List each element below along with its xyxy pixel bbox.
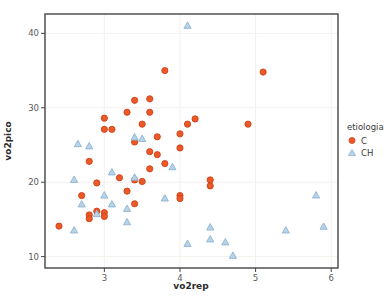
y-tick-label: 40 bbox=[28, 28, 39, 38]
data-point-c bbox=[101, 115, 107, 121]
data-point-c bbox=[192, 116, 198, 122]
data-point-ch bbox=[101, 192, 108, 198]
data-point-c bbox=[162, 67, 168, 73]
gridlines bbox=[45, 14, 338, 268]
data-point-c bbox=[147, 96, 153, 102]
data-point-c bbox=[86, 158, 92, 164]
axis-tick-labels: 345610203040 bbox=[28, 28, 334, 283]
data-point-c bbox=[101, 126, 107, 132]
data-point-c bbox=[147, 149, 153, 155]
axis-ticks bbox=[41, 33, 331, 272]
data-point-c bbox=[207, 183, 213, 189]
data-point-ch bbox=[78, 201, 85, 207]
data-point-ch bbox=[71, 176, 78, 182]
data-point-ch bbox=[139, 135, 146, 141]
y-axis-label: vo2pico bbox=[3, 121, 13, 160]
data-point-ch bbox=[320, 223, 327, 229]
data-point-ch bbox=[161, 195, 168, 201]
data-point-c bbox=[177, 145, 183, 151]
legend-marker-ch-triangle-icon bbox=[348, 150, 355, 156]
data-point-ch bbox=[131, 174, 138, 180]
data-point-ch bbox=[222, 239, 229, 245]
data-point-c bbox=[245, 121, 251, 127]
data-point-ch bbox=[312, 192, 319, 198]
data-point-c bbox=[184, 121, 190, 127]
legend-marker-c-circle-icon bbox=[349, 138, 355, 144]
legend-label-ch: CH bbox=[361, 148, 373, 158]
legend: etiologia C CH bbox=[347, 122, 384, 158]
data-point-c bbox=[109, 126, 115, 132]
y-tick-label: 20 bbox=[28, 177, 39, 187]
data-point-c bbox=[139, 121, 145, 127]
data-point-c bbox=[86, 216, 92, 222]
scatter-plot-figure: 345610203040 vo2rep vo2pico etiologia C … bbox=[0, 0, 391, 307]
data-point-ch bbox=[207, 224, 214, 230]
data-point-c bbox=[177, 195, 183, 201]
data-point-ch bbox=[169, 163, 176, 169]
data-point-ch bbox=[108, 201, 115, 207]
x-tick-label: 6 bbox=[328, 273, 333, 283]
data-point-c bbox=[79, 192, 85, 198]
data-point-ch bbox=[229, 252, 236, 258]
plot-panel-border bbox=[45, 14, 338, 268]
data-point-c bbox=[154, 152, 160, 158]
data-point-c bbox=[116, 175, 122, 181]
data-point-c bbox=[260, 69, 266, 75]
data-point-ch bbox=[184, 240, 191, 246]
data-point-ch bbox=[282, 227, 289, 233]
data-point-ch bbox=[74, 140, 81, 146]
data-point-c bbox=[207, 177, 213, 183]
data-point-c bbox=[101, 213, 107, 219]
data-point-c bbox=[147, 109, 153, 115]
legend-label-c: C bbox=[361, 136, 367, 146]
y-tick-label: 10 bbox=[28, 252, 39, 262]
data-point-c bbox=[132, 201, 138, 207]
data-point-ch bbox=[108, 169, 115, 175]
x-tick-label: 5 bbox=[253, 273, 258, 283]
data-point-ch bbox=[207, 236, 214, 242]
data-point-ch bbox=[184, 22, 191, 28]
data-point-c bbox=[139, 178, 145, 184]
data-point-c bbox=[162, 160, 168, 166]
data-point-c bbox=[56, 223, 62, 229]
x-axis-label: vo2rep bbox=[173, 281, 209, 291]
data-point-ch bbox=[71, 227, 78, 233]
data-point-c bbox=[124, 109, 130, 115]
data-point-c bbox=[124, 188, 130, 194]
x-tick-label: 3 bbox=[102, 273, 107, 283]
data-point-c bbox=[177, 131, 183, 137]
data-point-ch bbox=[123, 205, 130, 211]
data-point-c bbox=[154, 134, 160, 140]
y-tick-label: 30 bbox=[28, 103, 39, 113]
data-points bbox=[56, 22, 327, 258]
data-point-ch bbox=[123, 218, 130, 224]
data-point-ch bbox=[131, 134, 138, 140]
scatter-plot-canvas: 345610203040 vo2rep vo2pico etiologia C … bbox=[0, 0, 391, 307]
data-point-c bbox=[94, 180, 100, 186]
data-point-c bbox=[132, 97, 138, 103]
legend-title: etiologia bbox=[347, 122, 384, 132]
data-point-ch bbox=[86, 143, 93, 149]
data-point-c bbox=[147, 166, 153, 172]
